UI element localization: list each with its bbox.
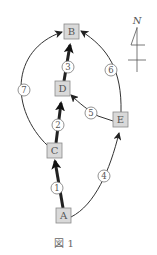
edge-label-6: 6 <box>105 64 117 76</box>
node-d: D <box>55 81 70 96</box>
edge-label-7: 7 <box>18 84 30 96</box>
svg-text:6: 6 <box>108 65 113 75</box>
node-e-label: E <box>117 114 124 125</box>
edge-4-path <box>71 133 119 217</box>
node-b-label: B <box>68 26 75 37</box>
node-c: C <box>47 143 62 158</box>
north-arrow-icon: N <box>128 15 146 72</box>
svg-text:4: 4 <box>101 171 106 181</box>
node-c-label: C <box>51 145 59 156</box>
route-diagram: B D E C A 1 2 3 4 5 6 7 <box>0 0 157 255</box>
svg-text:5: 5 <box>88 108 93 118</box>
svg-text:3: 3 <box>65 62 70 72</box>
node-d-label: D <box>58 83 66 94</box>
node-a: A <box>56 208 71 223</box>
svg-text:7: 7 <box>21 85 26 95</box>
edge-label-4: 4 <box>98 170 110 182</box>
svg-text:2: 2 <box>55 120 60 130</box>
svg-text:1: 1 <box>54 183 59 193</box>
north-label: N <box>132 15 143 26</box>
edge-label-5: 5 <box>85 107 97 119</box>
node-a-label: A <box>59 210 68 221</box>
edge-label-2: 2 <box>52 119 64 131</box>
figure-caption: 図 1 <box>54 238 74 249</box>
node-b: B <box>64 24 79 39</box>
edge-label-1: 1 <box>51 182 63 194</box>
edge-label-3: 3 <box>62 61 74 73</box>
node-e: E <box>113 112 128 127</box>
